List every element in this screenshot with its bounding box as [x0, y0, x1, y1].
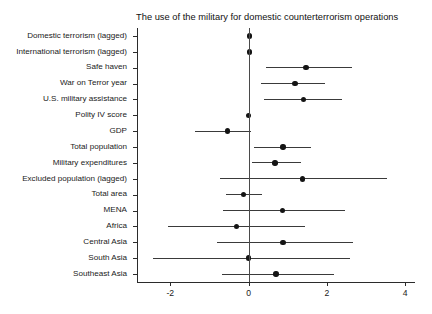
y-axis-tick: [133, 163, 137, 164]
point-estimate-marker: [280, 144, 285, 149]
y-axis-tick: [133, 84, 137, 85]
point-estimate-marker: [303, 65, 308, 70]
y-axis-tick-label: Military expenditures: [53, 158, 127, 168]
y-axis-tick-label: International terrorism (lagged): [16, 47, 127, 57]
y-axis-tick: [133, 52, 137, 53]
coefficient-row: [137, 203, 415, 219]
y-axis-tick: [133, 226, 137, 227]
point-estimate-marker: [234, 224, 239, 229]
chart-title: The use of the military for domestic cou…: [136, 12, 432, 22]
y-axis-tick: [133, 36, 137, 37]
plot-area: [137, 28, 415, 282]
y-axis-tick-label: Excluded population (lagged): [22, 174, 127, 184]
y-axis-tick-label: Polity IV score: [75, 110, 127, 120]
x-axis-tick: [327, 282, 328, 286]
coefficient-row: [137, 171, 415, 187]
coefficient-row: [137, 76, 415, 92]
y-axis-tick: [133, 179, 137, 180]
coefficient-row: [137, 219, 415, 235]
y-axis-labels: Domestic terrorism (lagged)International…: [0, 28, 133, 282]
coefficient-row: [137, 139, 415, 155]
y-axis-tick: [133, 115, 137, 116]
point-estimate-marker: [300, 176, 305, 181]
y-axis-tick-label: MENA: [104, 205, 127, 215]
y-axis-tick: [133, 131, 137, 132]
coefficient-row: [137, 234, 415, 250]
confidence-interval-bar: [153, 258, 350, 259]
y-axis-tick: [133, 147, 137, 148]
point-estimate-marker: [273, 271, 278, 276]
y-axis-tick-label: GDP: [109, 126, 127, 136]
y-axis-tick-label: U.S. military assistance: [43, 94, 127, 104]
y-axis-tick-label: Total population: [70, 142, 127, 152]
point-estimate-marker: [272, 160, 277, 165]
x-axis-tick-label: -2: [166, 288, 174, 298]
y-axis-tick: [133, 99, 137, 100]
confidence-interval-bar: [195, 131, 251, 132]
y-axis-tick-label: Domestic terrorism (lagged): [27, 31, 127, 41]
coefficient-row: [137, 107, 415, 123]
coefficient-row: [137, 250, 415, 266]
point-estimate-marker: [241, 192, 246, 197]
coefficient-row: [137, 155, 415, 171]
point-estimate-marker: [301, 97, 306, 102]
coefficient-row: [137, 28, 415, 44]
y-axis-tick: [133, 68, 137, 69]
x-axis-line: [137, 282, 415, 283]
y-axis-tick: [133, 195, 137, 196]
y-axis-tick: [133, 211, 137, 212]
x-axis-tick-label: 2: [325, 288, 330, 298]
y-axis-tick-label: Africa: [106, 221, 127, 231]
y-axis-tick-label: Total area: [91, 189, 127, 199]
y-axis-tick: [133, 274, 137, 275]
y-axis-tick: [133, 258, 137, 259]
y-axis-tick-label: War on Terror year: [60, 78, 127, 88]
y-axis-line: [137, 28, 138, 282]
point-estimate-marker: [292, 81, 297, 86]
y-axis-tick-label: Safe haven: [86, 62, 127, 72]
point-estimate-marker: [280, 240, 285, 245]
point-estimate-marker: [225, 128, 230, 133]
x-axis-tick: [170, 282, 171, 286]
point-estimate-marker: [280, 208, 285, 213]
coefficient-row: [137, 123, 415, 139]
coefficient-row: [137, 187, 415, 203]
coefficient-row: [137, 92, 415, 108]
y-axis-tick-label: South Asia: [88, 253, 127, 263]
x-axis-tick-label: 4: [403, 288, 408, 298]
y-axis-tick-label: Southeast Asia: [73, 269, 127, 279]
y-axis-tick-label: Central Asia: [83, 237, 127, 247]
zero-reference-line: [249, 28, 250, 282]
coefficient-row: [137, 60, 415, 76]
x-axis-tick-label: 0: [246, 288, 251, 298]
coefficient-plot-figure: The use of the military for domestic cou…: [0, 0, 432, 314]
coefficient-row: [137, 44, 415, 60]
x-axis-tick: [405, 282, 406, 286]
x-axis-tick: [249, 282, 250, 286]
y-axis-tick: [133, 242, 137, 243]
coefficient-row: [137, 266, 415, 282]
confidence-interval-bar: [266, 67, 352, 68]
